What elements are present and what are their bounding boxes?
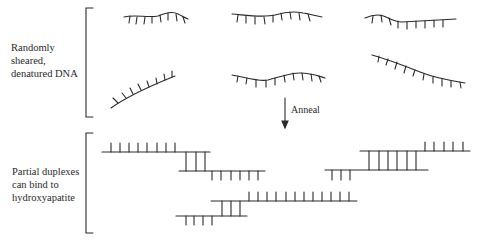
partial-duplex-2: [176, 192, 357, 225]
ss-dna-fragment-1: [124, 13, 188, 24]
ss-dna-fragment-2: [232, 12, 322, 24]
dna-diagram: [0, 0, 478, 245]
partial-duplex-1: [102, 143, 265, 180]
bracket-bottom: [86, 133, 93, 233]
anneal-arrow: [282, 98, 288, 128]
ss-dna-fragment-5: [232, 73, 325, 87]
ss-dna-fragment-6: [372, 55, 465, 88]
bracket-top: [86, 8, 93, 117]
ss-dna-fragment-3: [365, 15, 456, 29]
partial-duplex-3: [325, 142, 470, 180]
ss-dna-fragment-4: [111, 71, 175, 108]
